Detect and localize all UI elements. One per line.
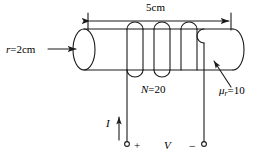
positive-polarity-label: +: [134, 140, 140, 151]
negative-terminal: [202, 142, 207, 147]
length-dimension-line: [88, 13, 231, 30]
negative-polarity-label: −: [189, 140, 196, 152]
core-right-end-cap: [233, 29, 244, 70]
permeability-label: μr=10: [219, 85, 245, 96]
voltage-label: V: [164, 140, 171, 151]
radius-value: =2cm: [10, 43, 35, 55]
turns-label: N=20: [141, 84, 166, 95]
coil-winding: [127, 22, 204, 77]
turns-value: =20: [148, 83, 165, 95]
current-label: I: [106, 118, 110, 129]
figure-drawing-canvas: [0, 0, 271, 159]
permeability-symbol: μ: [219, 84, 225, 96]
permeability-value: =10: [227, 84, 244, 96]
radius-label: r=2cm: [6, 44, 35, 55]
positive-terminal: [125, 142, 130, 147]
length-label: 5cm: [146, 2, 165, 13]
solenoid-figure: 5cm r=2cm N=20 μr=10 I + V −: [0, 0, 271, 159]
core-left-end-ellipse: [73, 29, 95, 70]
core-cylinder: [73, 29, 244, 70]
